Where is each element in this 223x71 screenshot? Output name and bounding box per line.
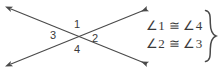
- closing-brace-icon: [203, 9, 223, 63]
- geometry-figure: 1 2 3 4 ∠1 ≅ ∠4 ∠2 ≅ ∠3: [0, 0, 223, 71]
- congruence-statements: ∠1 ≅ ∠4 ∠2 ≅ ∠3: [146, 18, 206, 53]
- congruence-statement-1: ∠1 ≅ ∠4: [146, 18, 206, 34]
- angle-label-3: 3: [50, 30, 56, 41]
- angle-label-1: 1: [74, 19, 80, 30]
- congruence-statement-2: ∠2 ≅ ∠3: [146, 36, 206, 52]
- angle-label-4: 4: [74, 44, 80, 55]
- angle-label-2: 2: [92, 33, 98, 44]
